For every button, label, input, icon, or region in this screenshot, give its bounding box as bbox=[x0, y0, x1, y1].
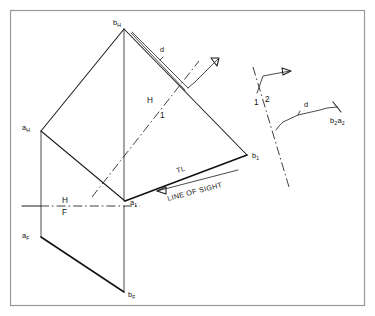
label-bh-sub: H bbox=[117, 22, 121, 28]
reference-label-h-top: H bbox=[147, 96, 153, 105]
figure-frame bbox=[11, 11, 365, 306]
label-bf-sub: F bbox=[132, 294, 135, 300]
label-af-sub: F bbox=[26, 235, 29, 241]
dimension-label-d-main: d bbox=[160, 45, 164, 54]
reference-label-f-front: F bbox=[62, 208, 67, 217]
reference-label-2-aux: 2 bbox=[265, 95, 270, 104]
label-a1-sub: 1 bbox=[134, 202, 137, 208]
reference-label-1-bottom: 1 bbox=[160, 111, 165, 120]
reference-label-1-aux: 1 bbox=[254, 98, 259, 107]
dimension-label-d-aux: d bbox=[304, 100, 308, 109]
label-ah-sub: H bbox=[26, 127, 30, 133]
figure-root: H 1 d TL LINE OF SIGHT bbox=[0, 0, 375, 316]
label-a2-sub: 2 bbox=[342, 120, 345, 126]
label-b1-sub: 1 bbox=[256, 155, 259, 161]
descriptive-geometry-figure: H 1 d TL LINE OF SIGHT bbox=[0, 0, 375, 316]
reference-label-h-front: H bbox=[62, 196, 68, 205]
